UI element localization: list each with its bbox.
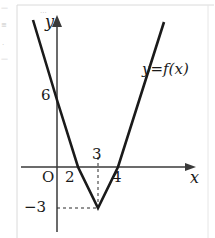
vertex-x-label: 3 bbox=[92, 147, 102, 162]
vertex-y-label: −3 bbox=[24, 200, 46, 215]
math-figure-graph: — ≡ · — ··· bbox=[0, 0, 215, 238]
curve-label: y=f(x) bbox=[142, 62, 189, 77]
x-intercept-left-label: 2 bbox=[65, 170, 75, 185]
page-border bbox=[17, 5, 214, 238]
x-axis-label: x bbox=[190, 170, 199, 186]
y-axis-label: y bbox=[45, 14, 54, 30]
y-axis bbox=[52, 15, 62, 232]
x-intercept-right-label: 4 bbox=[112, 170, 122, 185]
origin-label: O bbox=[42, 170, 54, 185]
y-intercept-label: 6 bbox=[41, 88, 51, 103]
